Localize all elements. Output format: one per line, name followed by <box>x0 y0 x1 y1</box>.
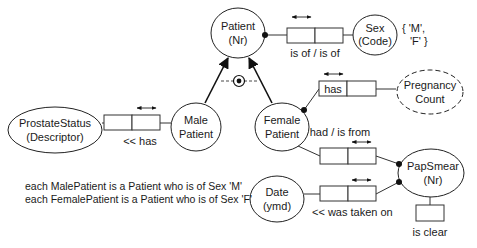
orm-diagram: Patient (Nr) is of / is of Sex (Code) { … <box>0 0 477 248</box>
entity-papsmear[interactable]: PapSmear (Nr) <box>396 149 464 197</box>
fact-patient-sex[interactable]: is of / is of <box>287 17 343 59</box>
svg-text:has: has <box>324 83 342 95</box>
svg-text:had / is from: had / is from <box>310 126 371 138</box>
mandatory-dot-icon <box>396 179 402 185</box>
svg-text:Patient: Patient <box>265 128 299 140</box>
entity-prostate-status[interactable]: ProstateStatus (Descriptor) <box>8 107 102 153</box>
svg-text:is clear: is clear <box>413 226 448 238</box>
svg-text:Patient: Patient <box>221 20 255 32</box>
svg-text:<< was taken on: << was taken on <box>312 206 393 218</box>
svg-text:Female: Female <box>264 114 301 126</box>
fact-male-prostate[interactable]: << has <box>104 108 160 147</box>
entity-date[interactable]: Date (ymd) <box>250 176 304 222</box>
svg-text:Pregnancy: Pregnancy <box>404 79 457 91</box>
subtype-arrows <box>205 58 272 103</box>
male-subtype-arrow <box>205 58 228 103</box>
svg-text:'F' }: 'F' } <box>410 35 428 47</box>
mandatory-dot-icon <box>396 161 402 167</box>
svg-text:Patient: Patient <box>179 128 213 140</box>
value-constraint: { 'M', 'F' } <box>402 22 428 47</box>
fact-female-pregnancy[interactable]: has <box>319 74 376 96</box>
svg-text:Male: Male <box>184 114 208 126</box>
svg-text:(Nr): (Nr) <box>424 174 443 186</box>
entity-patient[interactable]: Patient (Nr) <box>211 8 268 58</box>
svg-text:each FemalePatient is a Patien: each FemalePatient is a Patient who is o… <box>25 193 252 205</box>
entity-pregnancy-count[interactable]: Pregnancy Count <box>397 70 463 114</box>
svg-text:(ymd): (ymd) <box>263 200 291 212</box>
svg-text:<< has: << has <box>123 135 157 147</box>
svg-text:is of / is of: is of / is of <box>290 47 340 59</box>
svg-text:ProstateStatus: ProstateStatus <box>19 117 92 129</box>
fact-papsmear-clear[interactable]: is clear <box>413 205 448 238</box>
svg-text:PapSmear: PapSmear <box>407 160 459 172</box>
svg-text:Count: Count <box>415 93 444 105</box>
subtype-definitions: each MalePatient is a Patient who is of … <box>25 180 252 205</box>
svg-text:(Code): (Code) <box>358 35 392 47</box>
svg-text:Date: Date <box>265 186 288 198</box>
female-subtype-arrow <box>249 58 272 103</box>
svg-text:(Descriptor): (Descriptor) <box>26 131 83 143</box>
svg-text:Sex: Sex <box>366 22 385 34</box>
fact-female-papsmear[interactable]: had / is from <box>310 126 376 164</box>
svg-text:each MalePatient is a Patient: each MalePatient is a Patient who is of … <box>25 180 242 192</box>
entity-sex[interactable]: Sex (Code) <box>353 15 397 55</box>
fact-papsmear-date[interactable]: << was taken on <box>312 180 393 218</box>
mandatory-dot-icon <box>301 107 307 113</box>
entity-female-patient[interactable]: Female Patient <box>255 103 309 151</box>
mandatory-dot-icon <box>262 32 268 38</box>
svg-text:(Nr): (Nr) <box>229 34 248 46</box>
svg-text:{ 'M',: { 'M', <box>402 22 425 34</box>
entity-male-patient[interactable]: Male Patient <box>171 103 221 151</box>
